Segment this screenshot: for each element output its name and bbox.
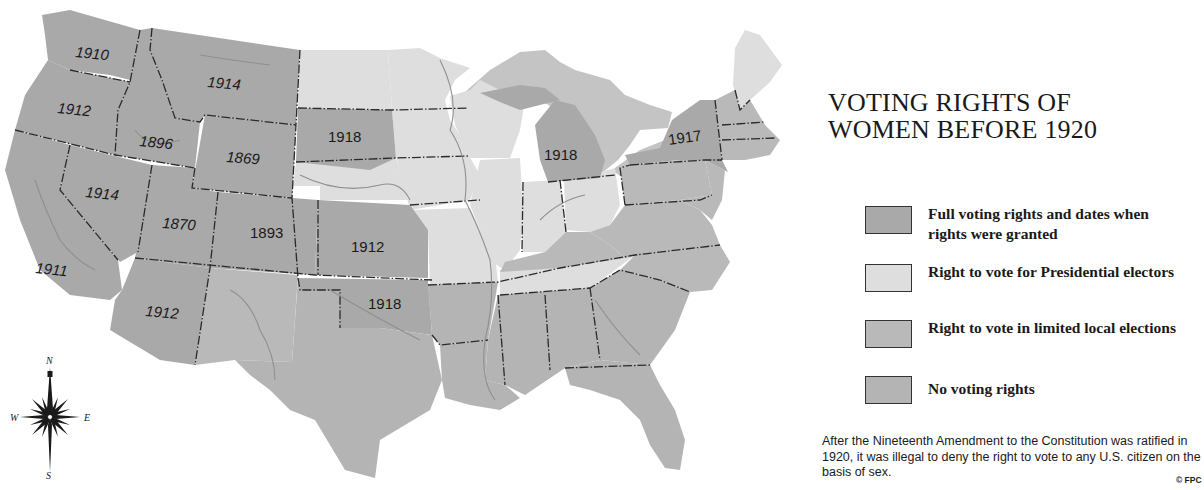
legend-panel: VOTING RIGHTS OF WOMEN BEFORE 1920 Full … xyxy=(820,0,1204,490)
year-washington: 1910 xyxy=(75,43,111,63)
legend-item-full-rights: Full voting rights and dates when rights… xyxy=(865,204,1178,244)
state-north-dakota xyxy=(298,50,392,110)
year-wyoming: 1869 xyxy=(226,148,261,167)
legend-swatch-local xyxy=(865,320,912,348)
state-florida xyxy=(565,360,685,470)
legend-item-none: No voting rights xyxy=(865,374,1178,404)
year-michigan: 1918 xyxy=(544,146,577,163)
state-maine xyxy=(733,30,782,110)
map-title: VOTING RIGHTS OF WOMEN BEFORE 1920 xyxy=(828,89,1097,143)
year-kansas: 1912 xyxy=(351,238,384,255)
legend-item-local: Right to vote in limited local elections xyxy=(865,318,1178,348)
year-california: 1911 xyxy=(35,259,69,279)
compass-star-icon xyxy=(10,355,90,485)
year-utah: 1870 xyxy=(162,214,197,233)
state-iowa xyxy=(396,154,480,210)
year-montana: 1914 xyxy=(207,73,242,93)
legend-label-none: No voting rights xyxy=(928,379,1178,399)
legend-swatch-full-rights xyxy=(865,206,912,234)
map-title-line2: WOMEN BEFORE 1920 xyxy=(828,116,1097,143)
year-nevada: 1914 xyxy=(85,183,120,203)
footnote: After the Nineteenth Amendment to the Co… xyxy=(822,434,1202,481)
legend-item-presidential: Right to vote for Presidential electors xyxy=(865,262,1178,292)
legend-swatch-none xyxy=(865,376,912,404)
us-map: 1910 1912 1911 1896 1914 1914 1869 1870 … xyxy=(0,0,800,490)
year-south-dakota: 1918 xyxy=(328,128,361,145)
year-oklahoma: 1918 xyxy=(368,295,401,312)
year-oregon: 1912 xyxy=(57,99,93,119)
year-idaho: 1896 xyxy=(139,132,175,152)
year-colorado: 1893 xyxy=(250,224,283,241)
legend-label-presidential: Right to vote for Presidential electors xyxy=(928,262,1178,282)
legend-label-local: Right to vote in limited local elections xyxy=(928,318,1178,338)
year-arizona: 1912 xyxy=(145,302,180,322)
compass-rose: N S W E xyxy=(10,355,90,485)
map-title-line1: VOTING RIGHTS OF xyxy=(828,89,1097,116)
copyright-credit: © FPC xyxy=(1176,475,1202,485)
state-new-mexico xyxy=(195,268,298,365)
state-arkansas xyxy=(428,282,498,345)
legend-label-full-rights: Full voting rights and dates when rights… xyxy=(928,204,1178,244)
legend-swatch-presidential xyxy=(865,264,912,292)
